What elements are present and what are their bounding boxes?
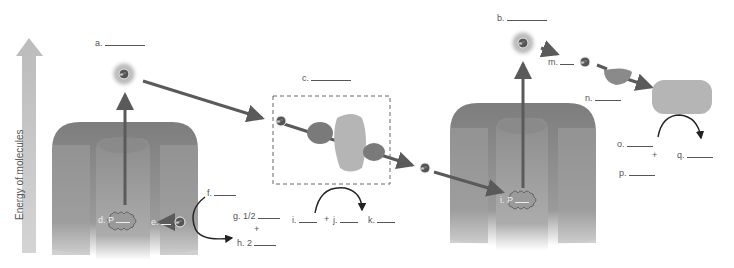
label-c-text: c. [302, 73, 309, 83]
plus-g-h: + [254, 224, 259, 234]
blank-i-bottom[interactable] [299, 215, 317, 223]
plus-o-p: + [652, 150, 657, 160]
label-d-text: d. P [98, 215, 114, 225]
label-q: q. [677, 150, 713, 160]
blank-e[interactable] [161, 217, 171, 225]
blank-k[interactable] [377, 215, 395, 223]
transport-arrow-4 [541, 48, 557, 54]
label-o-text: o. [617, 139, 625, 149]
label-b-text: b. [497, 13, 505, 23]
blank-a[interactable] [105, 38, 145, 46]
label-a: a. [95, 38, 145, 48]
label-d: d. P [98, 215, 130, 225]
transport-arrow-5 [597, 65, 607, 69]
label-g-text: g. [233, 211, 241, 221]
blank-i[interactable] [515, 195, 529, 203]
electron-chain-2: e⁻ [420, 163, 430, 173]
label-q-text: q. [677, 150, 685, 160]
label-m: m. [548, 57, 574, 67]
blank-h[interactable] [254, 238, 276, 246]
label-f-text: f. [207, 188, 212, 198]
label-a-text: a. [95, 38, 103, 48]
label-k: k. [368, 215, 395, 225]
blank-g[interactable] [258, 211, 280, 219]
label-i-p700: i. P [500, 195, 529, 205]
label-e: e. [151, 217, 171, 227]
electron-m: e⁻ [580, 57, 590, 67]
svg-text:e⁻: e⁻ [176, 219, 182, 225]
svg-text:e⁻: e⁻ [421, 165, 427, 171]
label-p-text: p. [619, 168, 627, 178]
blank-n[interactable] [595, 93, 621, 101]
label-c: c. [302, 73, 351, 83]
water-splitting-curved-arrow [193, 197, 232, 239]
cytochrome-complex [307, 114, 385, 172]
nadp-reductase [652, 80, 712, 114]
svg-text:e⁻: e⁻ [277, 118, 283, 124]
blank-p[interactable] [629, 168, 655, 176]
blank-c[interactable] [311, 73, 351, 81]
label-m-text: m. [548, 57, 558, 67]
label-n: n. [585, 93, 621, 103]
ferredoxin [604, 68, 632, 85]
transport-arrow-6 [627, 79, 651, 87]
svg-text:e⁻: e⁻ [581, 59, 587, 65]
label-f: f. [207, 188, 236, 198]
svg-text:e⁻: e⁻ [519, 40, 525, 46]
blank-d[interactable] [116, 215, 130, 223]
label-o: o. [617, 139, 653, 149]
nadph-curved-arrow [658, 115, 701, 138]
blank-q[interactable] [687, 150, 713, 158]
electron-b: e⁻ [518, 38, 528, 48]
label-i-bottom: i. [292, 215, 317, 225]
label-n-text: n. [585, 93, 593, 103]
label-h: h. 2 [237, 238, 276, 248]
label-i-text: i. P [500, 195, 513, 205]
blank-j[interactable] [340, 215, 358, 223]
transport-arrow-1 [143, 81, 262, 118]
label-g-fraction: 1/2 [243, 211, 256, 221]
atp-synthesis-curved-arrow [315, 188, 362, 213]
label-j: j. [333, 215, 358, 225]
svg-text:e⁻: e⁻ [120, 71, 126, 77]
electron-a: e⁻ [119, 69, 129, 79]
energy-axis-label: Energy of molecules [14, 70, 25, 220]
label-b: b. [497, 13, 547, 23]
blank-m[interactable] [560, 57, 574, 65]
label-j-text: j. [333, 215, 338, 225]
label-e-text: e. [151, 217, 159, 227]
electron-chain-1: e⁻ [276, 116, 286, 126]
label-k-text: k. [368, 215, 375, 225]
blank-b[interactable] [507, 13, 547, 21]
label-i-bottom-text: i. [292, 215, 297, 225]
label-p: p. [619, 168, 655, 178]
label-h-text: h. 2 [237, 238, 252, 248]
electron-e: e⁻ [175, 217, 185, 227]
blank-o[interactable] [627, 139, 653, 147]
label-g: g. 1/2 [233, 211, 280, 221]
plus-i-j: + [324, 214, 329, 224]
blank-f[interactable] [214, 188, 236, 196]
